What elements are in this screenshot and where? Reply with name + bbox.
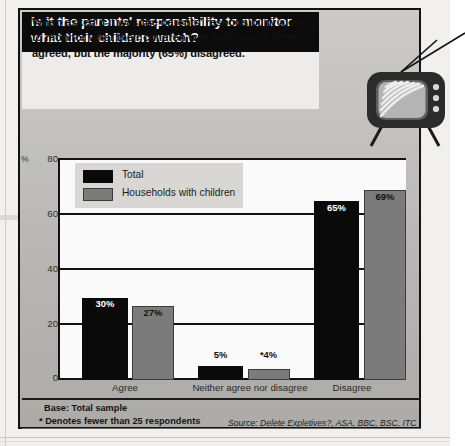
y-tick-40: 40 [28, 263, 58, 274]
gridline-80 [60, 158, 406, 160]
legend-swatch-total-icon [83, 170, 113, 183]
scan-smudge [0, 215, 18, 220]
y-tick-80: 80 [28, 153, 58, 164]
bar-label-neither-households: *4% [246, 349, 291, 360]
scan-bottom-line [0, 437, 450, 438]
bar-label-agree-households: 27% [132, 307, 174, 318]
television-icon [353, 50, 465, 155]
footer-note-text: * Denotes fewer than 25 respondents [39, 416, 200, 426]
bar-disagree-households [364, 190, 406, 380]
bar-neither-households [248, 369, 290, 380]
y-tick-20: 20 [28, 318, 58, 329]
chart-card: Is it the parents' responsibility to mon… [18, 8, 421, 429]
bar-agree-total [82, 298, 128, 381]
legend-swatch-households-icon [83, 188, 113, 201]
bar-label-agree-total: 30% [82, 298, 128, 309]
bar-neither-total [198, 366, 243, 380]
y-tick-60: 60 [28, 208, 58, 219]
bar-label-neither-total: 5% [198, 349, 243, 360]
chart-legend: Total Households with children [75, 163, 243, 208]
legend-label-households: Households with children [122, 187, 235, 198]
footer-source-text: Source: Delete Expletives?, ASA, BBC, BS… [228, 418, 416, 428]
bar-disagree-total [314, 201, 359, 380]
y-tick-0: 0 [28, 372, 58, 383]
axis-y-line [58, 158, 60, 380]
scan-bottom-line-secondary [0, 441, 450, 442]
intro-paragraph: When asked if it was the parents' respon… [32, 15, 315, 61]
footer-base-text: Base: Total sample [44, 403, 127, 413]
legend-label-total: Total [122, 169, 144, 180]
category-label-disagree: Disagree [292, 382, 412, 393]
scan-edge-line [5, 0, 6, 446]
footer-divider [22, 398, 421, 400]
bar-label-disagree-total: 65% [314, 202, 359, 213]
bar-label-disagree-households: 69% [364, 191, 406, 202]
footer-bottom-divider [22, 428, 421, 429]
